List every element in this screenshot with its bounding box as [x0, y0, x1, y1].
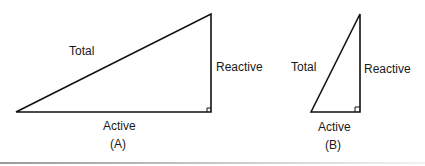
triangle-b	[311, 14, 360, 112]
triangle-b-total-label: Total	[291, 60, 316, 74]
triangle-b-reactive-label: Reactive	[364, 62, 411, 76]
triangle-a-reactive-label: Reactive	[216, 60, 263, 74]
bottom-divider	[0, 162, 425, 164]
triangles-graphic	[0, 0, 425, 166]
power-triangle-diagram: Total Reactive Active (A) Total Reactive…	[0, 0, 425, 166]
triangle-a-caption: (A)	[110, 137, 126, 151]
triangle-a-active-label: Active	[103, 119, 136, 133]
triangle-b-active-label: Active	[318, 120, 351, 134]
triangle-a-total-label: Total	[69, 44, 94, 58]
triangle-b-caption: (B)	[325, 138, 341, 152]
triangle-a	[16, 14, 211, 112]
